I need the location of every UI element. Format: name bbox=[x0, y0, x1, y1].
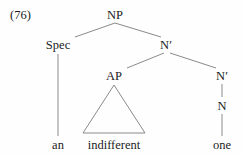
ap-triangle-group bbox=[83, 85, 145, 133]
prime-mark: ′ bbox=[225, 69, 228, 83]
tree-branch-nbar1-to-ap bbox=[127, 53, 164, 68]
tree-branch-np-to-spec bbox=[75, 23, 115, 37]
tree-node-nbar1: N′ bbox=[160, 39, 172, 52]
tree-node-nbar2: N′ bbox=[216, 70, 228, 83]
prime-mark: ′ bbox=[169, 38, 172, 52]
syntax-tree-figure: (76) NPSpecN′APN′N anindifferentone bbox=[0, 0, 244, 155]
tree-branch-np-to-nbar1 bbox=[115, 23, 161, 37]
tree-node-n: N bbox=[217, 100, 226, 113]
tree-terminal-one: one bbox=[213, 139, 231, 152]
tree-terminal-indifferent: indifferent bbox=[88, 139, 141, 152]
tree-node-ap: AP bbox=[106, 70, 122, 83]
tree-node-np: NP bbox=[107, 9, 123, 22]
tree-node-spec: Spec bbox=[46, 39, 71, 52]
branch-group bbox=[58, 23, 222, 136]
tree-terminal-an: an bbox=[52, 139, 64, 152]
tree-branch-nbar1-to-nbar2 bbox=[170, 53, 216, 68]
ap-triangle bbox=[83, 85, 145, 133]
